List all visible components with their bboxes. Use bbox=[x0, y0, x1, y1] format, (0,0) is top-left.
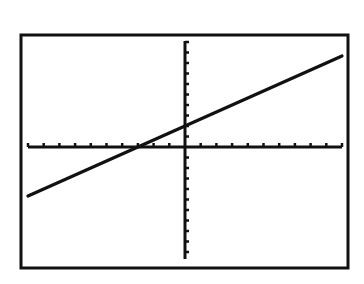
calculator-graph-screen bbox=[0, 0, 364, 284]
